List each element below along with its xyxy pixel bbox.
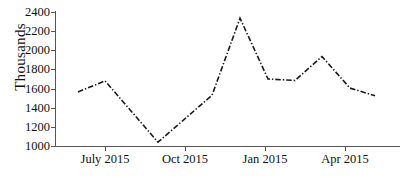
y-tick-label: 1800 — [16, 63, 50, 76]
x-tick-label: July 2015 — [81, 152, 130, 166]
y-tick-mark — [51, 108, 55, 109]
y-tick-label: 1000 — [16, 140, 50, 153]
y-tick-label: 1200 — [16, 121, 50, 134]
x-tick-label: Apr 2015 — [321, 152, 369, 166]
x-axis-line — [55, 146, 400, 147]
y-axis-tick-labels: 24002200200018001600140012001000 — [14, 0, 50, 178]
y-tick-mark — [51, 89, 55, 90]
y-tick-label: 2000 — [16, 44, 50, 57]
y-tick-mark — [51, 12, 55, 13]
y-tick-mark — [51, 127, 55, 128]
y-tick-mark — [51, 146, 55, 147]
y-tick-mark — [51, 31, 55, 32]
y-axis-line — [55, 11, 56, 147]
y-tick-label: 1600 — [16, 83, 50, 96]
x-tick-mark — [105, 147, 106, 151]
line-chart: Thousands 240022002000180016001400120010… — [0, 0, 405, 178]
y-tick-mark — [51, 69, 55, 70]
x-tick-mark — [185, 147, 186, 151]
x-tick-label: Oct 2015 — [162, 152, 208, 166]
y-tick-label: 2400 — [16, 6, 50, 19]
y-tick-label: 1400 — [16, 102, 50, 115]
y-tick-mark — [51, 50, 55, 51]
x-tick-mark — [345, 147, 346, 151]
x-tick-label: Jan 2015 — [243, 152, 288, 166]
x-tick-mark — [265, 147, 266, 151]
y-tick-label: 2200 — [16, 25, 50, 38]
